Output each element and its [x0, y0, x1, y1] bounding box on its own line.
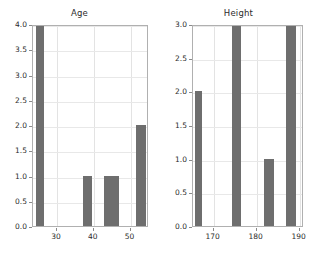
gridline-horizontal: [33, 152, 147, 153]
y-tick-mark: [29, 76, 32, 77]
y-tick-mark: [189, 160, 192, 161]
y-tick-label: 0.0: [159, 223, 187, 231]
gridline-horizontal: [33, 26, 147, 27]
y-tick-label: 0.5: [0, 198, 27, 206]
gridline-vertical: [57, 26, 58, 226]
y-tick-label: 0.5: [159, 189, 187, 197]
x-tick-mark: [256, 228, 257, 231]
y-tick-label: 2.5: [159, 55, 187, 63]
x-tick-label: 190: [292, 233, 306, 241]
x-tick-label: 40: [88, 233, 98, 241]
y-tick-mark: [189, 193, 192, 194]
gridline-vertical: [94, 26, 95, 226]
subplot-age: Age 0.00.51.01.52.02.53.03.54.0 304050: [0, 0, 159, 256]
bar: [195, 91, 203, 226]
y-tick-mark: [29, 227, 32, 228]
y-tick-mark: [189, 227, 192, 228]
y-tick-label: 3.0: [159, 21, 187, 29]
x-tick-mark: [213, 228, 214, 231]
bar: [232, 25, 241, 226]
gridline-horizontal: [33, 127, 147, 128]
y-tick-label: 1.0: [0, 173, 27, 181]
plot-title-height: Height: [159, 8, 318, 18]
y-tick-mark: [29, 126, 32, 127]
gridline-vertical: [300, 26, 301, 226]
gridline-vertical: [214, 26, 215, 226]
axes-age: [32, 25, 148, 227]
bar: [83, 176, 92, 227]
y-tick-mark: [29, 177, 32, 178]
bar: [136, 125, 146, 226]
y-tick-label: 1.0: [159, 156, 187, 164]
y-tick-label: 4.0: [0, 21, 27, 29]
gridline-horizontal: [33, 77, 147, 78]
gridline-vertical: [131, 26, 132, 226]
y-tick-mark: [189, 25, 192, 26]
y-tick-mark: [29, 151, 32, 152]
y-tick-mark: [189, 59, 192, 60]
gridline-horizontal: [33, 51, 147, 52]
x-tick-mark: [93, 228, 94, 231]
y-tick-label: 2.0: [0, 122, 27, 130]
y-tick-label: 1.5: [159, 122, 187, 130]
y-tick-mark: [29, 25, 32, 26]
y-tick-label: 2.0: [159, 88, 187, 96]
y-tick-label: 3.5: [0, 46, 27, 54]
x-tick-label: 50: [125, 233, 135, 241]
y-tick-label: 1.5: [0, 147, 27, 155]
x-tick-mark: [130, 228, 131, 231]
gridline-vertical: [257, 26, 258, 226]
x-tick-label: 30: [51, 233, 61, 241]
bar: [286, 25, 296, 226]
bar: [104, 176, 119, 227]
y-tick-mark: [29, 50, 32, 51]
x-tick-label: 180: [249, 233, 263, 241]
matplotlib-figure: Age 0.00.51.01.52.02.53.03.54.0 304050 H…: [0, 0, 318, 256]
y-tick-label: 0.0: [0, 223, 27, 231]
bar: [36, 25, 44, 226]
plot-title-age: Age: [0, 8, 159, 18]
y-tick-mark: [29, 202, 32, 203]
x-tick-mark: [299, 228, 300, 231]
x-tick-mark: [56, 228, 57, 231]
bar: [264, 159, 273, 226]
y-tick-mark: [189, 92, 192, 93]
gridline-horizontal: [33, 102, 147, 103]
x-tick-label: 170: [205, 233, 219, 241]
axes-height: [192, 25, 303, 227]
subplot-height: Height 0.00.51.01.52.02.53.0 170180190: [159, 0, 318, 256]
y-tick-mark: [29, 101, 32, 102]
y-tick-label: 3.0: [0, 72, 27, 80]
y-tick-mark: [189, 126, 192, 127]
y-tick-label: 2.5: [0, 97, 27, 105]
